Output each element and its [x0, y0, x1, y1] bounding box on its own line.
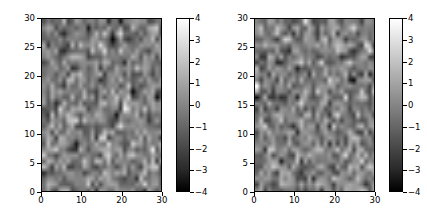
y-tick-label: 20 [213, 72, 248, 81]
y-tick-mark [37, 134, 41, 135]
colorbar-tick-mark [190, 192, 194, 193]
colorbar-tick-label: 2 [195, 57, 200, 66]
x-tick-label: 20 [329, 196, 340, 205]
y-tick-mark [250, 134, 254, 135]
colorbar-tick-mark [403, 105, 407, 106]
y-tick-label: 15 [213, 101, 248, 110]
subplot-panel-right: 051015202530 0102030 43210−1−2−3−4 [213, 0, 426, 222]
colorbar-tick-mark [190, 127, 194, 128]
colorbar-left[interactable] [176, 18, 190, 192]
x-tick-label: 30 [157, 196, 168, 205]
colorbar-tick-mark [403, 170, 407, 171]
y-tick-label: 25 [0, 43, 35, 52]
y-tick-label: 15 [0, 101, 35, 110]
heatmap-image-left [42, 19, 162, 192]
subplot-panel-left: 051015202530 0102030 43210−1−2−3−4 [0, 0, 213, 222]
y-tick-mark [37, 163, 41, 164]
colorbar-tick-label: −3 [195, 166, 208, 175]
colorbar-tick-label: 2 [408, 57, 413, 66]
colorbar-tick-mark [190, 40, 194, 41]
figure-canvas: 051015202530 0102030 43210−1−2−3−4 05101… [0, 0, 427, 222]
y-tick-mark [250, 76, 254, 77]
y-tick-label: 5 [213, 159, 248, 168]
x-tick-label: 0 [251, 196, 256, 205]
colorbar-tick-label: 4 [408, 14, 413, 23]
colorbar-tick-label: 1 [195, 79, 200, 88]
colorbar-tick-mark [190, 170, 194, 171]
colorbar-tick-mark [403, 127, 407, 128]
colorbar-tick-label: 1 [408, 79, 413, 88]
colorbar-tick-mark [190, 149, 194, 150]
colorbar-tick-mark [403, 83, 407, 84]
heatmap-image-right [255, 19, 375, 192]
colorbar-tick-label: 0 [195, 101, 200, 110]
y-tick-label: 20 [0, 72, 35, 81]
colorbar-tick-label: −2 [408, 144, 421, 153]
colorbar-tick-label: −1 [408, 123, 421, 132]
colorbar-tick-label: −4 [408, 188, 421, 197]
x-tick-label: 10 [76, 196, 87, 205]
y-tick-mark [37, 18, 41, 19]
colorbar-tick-mark [190, 105, 194, 106]
colorbar-tick-label: 3 [408, 36, 413, 45]
colorbar-tick-mark [403, 149, 407, 150]
y-tick-label: 30 [0, 14, 35, 23]
y-tick-label: 10 [0, 130, 35, 139]
y-tick-label: 0 [213, 188, 248, 197]
x-tick-label: 0 [38, 196, 43, 205]
colorbar-tick-label: 0 [408, 101, 413, 110]
colorbar-tick-mark [403, 40, 407, 41]
colorbar-tick-label: −2 [195, 144, 208, 153]
colorbar-tick-mark [403, 18, 407, 19]
colorbar-tick-mark [403, 62, 407, 63]
y-tick-label: 30 [213, 14, 248, 23]
y-tick-mark [37, 76, 41, 77]
colorbar-tick-mark [403, 192, 407, 193]
y-tick-mark [250, 18, 254, 19]
y-tick-mark [250, 163, 254, 164]
x-tick-label: 10 [289, 196, 300, 205]
heatmap-axes-left[interactable] [41, 18, 162, 192]
y-tick-label: 0 [0, 188, 35, 197]
y-tick-label: 25 [213, 43, 248, 52]
x-tick-label: 30 [370, 196, 381, 205]
x-tick-label: 20 [116, 196, 127, 205]
colorbar-tick-label: −1 [195, 123, 208, 132]
y-tick-mark [250, 105, 254, 106]
y-tick-label: 10 [213, 130, 248, 139]
colorbar-tick-label: −3 [408, 166, 421, 175]
y-tick-mark [37, 47, 41, 48]
colorbar-tick-label: −4 [195, 188, 208, 197]
heatmap-axes-right[interactable] [254, 18, 375, 192]
colorbar-tick-mark [190, 62, 194, 63]
colorbar-tick-mark [190, 18, 194, 19]
colorbar-tick-label: 4 [195, 14, 200, 23]
colorbar-tick-label: 3 [195, 36, 200, 45]
colorbar-tick-mark [190, 83, 194, 84]
y-tick-mark [37, 105, 41, 106]
colorbar-right[interactable] [389, 18, 403, 192]
y-tick-mark [250, 47, 254, 48]
y-tick-label: 5 [0, 159, 35, 168]
